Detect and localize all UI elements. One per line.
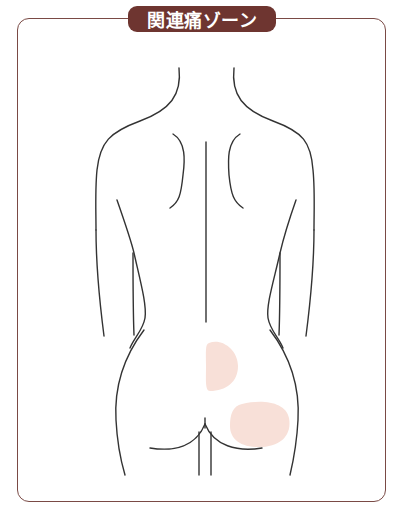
right-torso-side (268, 200, 296, 348)
right-scapula-line (228, 134, 243, 208)
right-neck-shoulder-line (234, 68, 315, 230)
back-figure (0, 0, 393, 511)
left-hip-line (116, 330, 144, 475)
pain-zone-lower (230, 402, 290, 447)
left-torso-side (117, 200, 145, 348)
left-arm-inner (133, 253, 134, 335)
left-neck-shoulder-line (96, 68, 180, 230)
right-arm-inner (279, 253, 280, 335)
left-arm-outer (96, 230, 104, 336)
right-arm-outer (306, 230, 314, 336)
left-gluteal-crease (150, 424, 205, 449)
pain-zone-upper (206, 342, 238, 391)
left-scapula-line (170, 134, 184, 208)
right-hip-line (270, 330, 298, 475)
